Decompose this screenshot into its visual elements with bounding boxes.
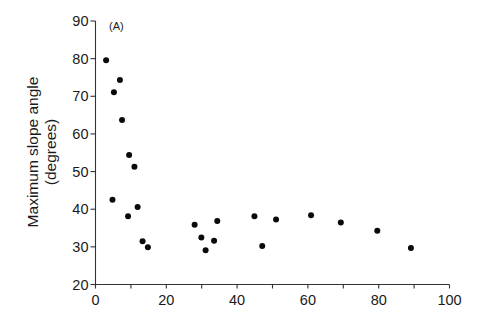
data-points (103, 57, 414, 253)
data-point (145, 244, 151, 250)
data-point (408, 245, 414, 251)
data-point (338, 219, 344, 225)
y-tick-label: 60 (72, 126, 88, 142)
data-point (374, 228, 380, 234)
x-tick-label: 0 (91, 292, 99, 308)
y-tick-label: 20 (72, 277, 88, 293)
data-point (203, 247, 209, 253)
x-axis-ticks: 020406080100 (91, 285, 461, 308)
y-tick-label: 30 (72, 239, 88, 255)
y-axis-title: Maximum slope angle(degrees) (24, 77, 59, 228)
data-point (308, 212, 314, 218)
data-point (273, 216, 279, 222)
data-point (111, 89, 117, 95)
panel-label-text: (A) (109, 20, 124, 32)
x-tick-label: 40 (229, 292, 245, 308)
data-point (251, 213, 257, 219)
x-tick-label: 60 (300, 292, 316, 308)
data-point (126, 152, 132, 158)
y-tick-label: 90 (72, 13, 88, 29)
data-point (103, 57, 109, 63)
data-point (117, 77, 123, 83)
y-tick-label: 80 (72, 51, 88, 67)
data-point (109, 197, 115, 203)
data-point (259, 243, 265, 249)
data-point (192, 222, 198, 228)
y-tick-label: 50 (72, 164, 88, 180)
x-tick-label: 80 (371, 292, 387, 308)
y-axis-ticks: 2030405060708090 (72, 13, 95, 293)
data-point (135, 204, 141, 210)
data-point (198, 234, 204, 240)
x-tick-label: 20 (158, 292, 174, 308)
y-axis-title-line: (degrees) (42, 119, 59, 185)
data-point (131, 164, 137, 170)
data-point (119, 117, 125, 123)
x-tick-label: 100 (437, 292, 461, 308)
panel-label: (A) (109, 20, 124, 32)
y-tick-label: 70 (72, 88, 88, 104)
data-point (125, 213, 131, 219)
scatter-chart: Maximum slope angle(degrees) (A) 0204060… (0, 0, 483, 329)
data-point (211, 238, 217, 244)
data-point (140, 238, 146, 244)
y-tick-label: 40 (72, 201, 88, 217)
y-axis-title-line: Maximum slope angle (24, 77, 41, 228)
data-point (214, 218, 220, 224)
